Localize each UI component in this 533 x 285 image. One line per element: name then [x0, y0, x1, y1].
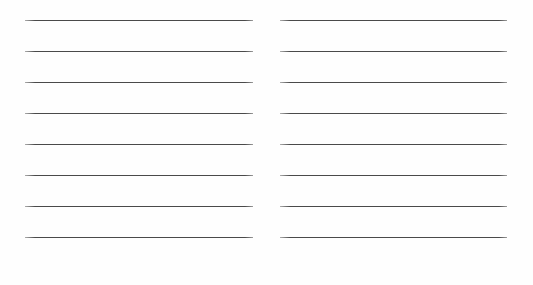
rule-line-right-3 [280, 82, 507, 83]
write-line-right-6[interactable] [280, 148, 507, 175]
write-line-left-2[interactable] [25, 24, 253, 51]
write-line-left-7[interactable] [25, 179, 253, 206]
rule-line-right-8 [280, 237, 507, 238]
ruled-sheet-page [0, 0, 533, 285]
rule-line-left-3 [25, 82, 253, 83]
rule-line-right-4 [280, 113, 507, 114]
write-line-left-1[interactable] [25, 0, 253, 20]
write-line-left-5[interactable] [25, 117, 253, 144]
rule-line-right-7 [280, 206, 507, 207]
write-line-right-3[interactable] [280, 55, 507, 82]
rule-line-right-2 [280, 51, 507, 52]
write-line-left-6[interactable] [25, 148, 253, 175]
write-line-left-4[interactable] [25, 86, 253, 113]
rule-line-right-1 [280, 20, 507, 21]
write-line-left-3[interactable] [25, 55, 253, 82]
write-line-right-8[interactable] [280, 210, 507, 237]
rule-line-right-6 [280, 175, 507, 176]
rule-line-left-1 [25, 20, 253, 21]
write-line-right-2[interactable] [280, 24, 507, 51]
write-line-right-4[interactable] [280, 86, 507, 113]
write-line-right-1[interactable] [280, 0, 507, 20]
rule-line-left-6 [25, 175, 253, 176]
write-line-left-8[interactable] [25, 210, 253, 237]
rule-line-right-5 [280, 144, 507, 145]
ruled-column-right [280, 0, 507, 285]
write-line-right-5[interactable] [280, 117, 507, 144]
rule-line-left-7 [25, 206, 253, 207]
rule-line-left-5 [25, 144, 253, 145]
write-line-right-7[interactable] [280, 179, 507, 206]
rule-line-left-4 [25, 113, 253, 114]
rule-line-left-2 [25, 51, 253, 52]
ruled-column-left [25, 0, 253, 285]
rule-line-left-8 [25, 237, 253, 238]
